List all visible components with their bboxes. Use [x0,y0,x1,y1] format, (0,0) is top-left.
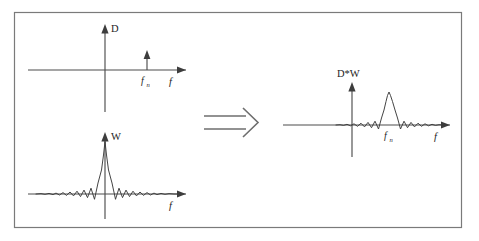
result-panel: D*W f n f [283,68,450,157]
delta-panel: D f n f [28,23,186,112]
result-x-axis-label: f [434,131,439,142]
result-center-label: f [384,130,388,141]
window-series-label: W [111,131,121,142]
signal-convolution-figure: D f n f W f [0,0,479,241]
result-center-label-subscript: n [390,136,394,143]
window-x-axis-label: f [169,200,174,211]
delta-x-axis-arrowhead [177,67,186,74]
result-series-label: D*W [337,68,360,79]
delta-x-axis-label: f [169,76,174,87]
delta-impulse-arrowhead [144,50,151,59]
window-panel: W f [28,131,186,219]
figure-container: D f n f W f [0,0,479,241]
window-y-axis-arrowhead [101,132,108,142]
implies-chevron [243,108,258,137]
delta-impulse-label-subscript: n [147,81,151,88]
implies-arrow [204,108,258,137]
result-y-axis-arrowhead [348,82,355,92]
delta-impulse-label: f [141,75,145,86]
delta-series-label: D [111,23,119,34]
delta-y-axis-arrowhead [101,24,108,34]
window-curve [36,142,178,200]
